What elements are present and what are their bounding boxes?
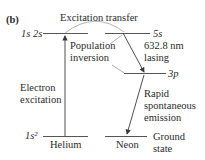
lasing-label-1: 632.8 nm bbox=[144, 40, 184, 52]
spontaneous-emission-arrow bbox=[127, 75, 144, 134]
lasing-arrow bbox=[123, 33, 144, 72]
neon-label: Neon bbox=[116, 139, 139, 151]
emission-label-2: spontaneous bbox=[144, 100, 196, 112]
ground-state-label-2: state bbox=[153, 143, 172, 155]
neon-3p-label: 3p bbox=[168, 68, 179, 80]
inversion-leader-2 bbox=[112, 65, 124, 73]
lasing-label-2: lasing bbox=[144, 52, 169, 64]
helium-label: Helium bbox=[50, 139, 82, 151]
helium-ground-label: 1s² bbox=[25, 130, 37, 142]
excitation-transfer-label: Excitation transfer bbox=[60, 12, 138, 24]
electron-excitation-label-1: Electron bbox=[20, 82, 56, 94]
emission-label-1: Rapid bbox=[144, 88, 169, 100]
emission-label-3: emission bbox=[144, 112, 181, 124]
helium-excited-level-label: 1s 2s bbox=[21, 28, 42, 40]
ground-state-label-1: Ground bbox=[153, 131, 185, 143]
electron-excitation-label-2: excitation bbox=[20, 94, 61, 106]
neon-5s-label: 5s bbox=[153, 28, 162, 40]
population-inversion-label-1: Population bbox=[70, 40, 116, 52]
panel-label: (b) bbox=[6, 14, 19, 26]
population-inversion-label-2: inversion bbox=[70, 52, 109, 64]
